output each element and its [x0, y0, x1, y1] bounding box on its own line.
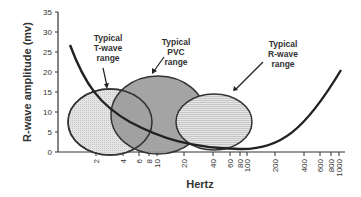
- r-wave-annotation: Typical R-wave range: [233, 39, 298, 91]
- chart: R-wave amplitude (mv) 05101520253035 246…: [0, 0, 361, 197]
- svg-text:range: range: [96, 53, 119, 63]
- x-tick-label: 100: [243, 158, 252, 172]
- svg-text:range: range: [271, 59, 294, 69]
- x-tick-label: 60: [226, 158, 235, 167]
- x-tick-label: 400: [300, 158, 309, 172]
- svg-text:T-wave: T-wave: [94, 43, 123, 53]
- svg-text:R-wave: R-wave: [268, 49, 298, 59]
- x-tick-label: 600: [316, 158, 325, 172]
- svg-text:Typical: Typical: [94, 33, 123, 43]
- y-tick-label: 20: [43, 68, 52, 77]
- y-tick-label: 25: [43, 48, 52, 57]
- y-tick-label: 35: [43, 8, 52, 17]
- x-tick-label: 6: [135, 158, 144, 163]
- x-tick-label: 200: [271, 158, 280, 172]
- x-tick-label: 40: [209, 158, 218, 167]
- x-tick-label: 2: [92, 158, 101, 163]
- svg-text:range: range: [164, 57, 187, 67]
- x-axis-title: Hertz: [186, 178, 214, 190]
- x-tick-label: 20: [180, 158, 189, 167]
- y-tick-label: 10: [43, 108, 52, 117]
- y-axis: 05101520253035: [43, 8, 58, 157]
- y-tick-label: 0: [48, 148, 53, 157]
- pvc-annotation: Typical PVC range: [152, 37, 190, 74]
- t-wave-annotation: Typical T-wave range: [94, 33, 123, 89]
- x-axis: 246810204060801002004006008001000: [58, 152, 345, 177]
- y-tick-label: 30: [43, 28, 52, 37]
- x-tick-label: 10: [153, 158, 162, 167]
- svg-text:Typical: Typical: [162, 37, 191, 47]
- x-tick-label: 1000: [335, 158, 344, 176]
- y-tick-label: 15: [43, 88, 52, 97]
- svg-text:PVC: PVC: [167, 47, 184, 57]
- y-axis-title: R-wave amplitude (mv): [21, 22, 33, 142]
- r-wave-region: [176, 94, 252, 150]
- x-tick-label: 4: [119, 158, 128, 163]
- y-tick-label: 5: [48, 128, 53, 137]
- svg-text:Typical: Typical: [269, 39, 298, 49]
